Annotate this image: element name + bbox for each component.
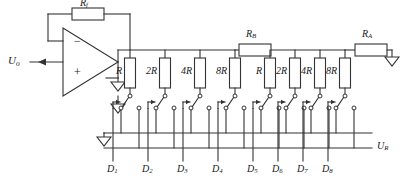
ground-opamp xyxy=(111,78,125,91)
bit-label: D6 xyxy=(272,164,283,175)
bit-label: D7 xyxy=(297,164,308,175)
switch-control-arrowhead xyxy=(331,100,335,104)
opamp-triangle xyxy=(63,28,118,96)
ladder-resistor-body xyxy=(230,58,241,88)
switch-control-arrowhead xyxy=(256,100,260,104)
switch-blade xyxy=(227,97,233,106)
switch-control-arrowhead xyxy=(151,100,155,104)
ladder-resistor-label: 2R xyxy=(137,66,157,76)
bit-label: D4 xyxy=(212,164,223,175)
ladder-resistor-label: 8R xyxy=(317,66,337,76)
ladder-resistor-body xyxy=(340,58,351,88)
ladder-resistor-label: 4R xyxy=(292,66,312,76)
switch-blade xyxy=(157,97,163,106)
switch-blade xyxy=(262,97,268,106)
bit-label: D3 xyxy=(177,164,188,175)
schematic-svg: .w{stroke:#333333;stroke-width:1.1;fill:… xyxy=(0,0,411,191)
ladder-resistor-label: 4R xyxy=(172,66,192,76)
bit-label: D8 xyxy=(322,164,333,175)
bit-label: D1 xyxy=(107,164,118,175)
switch-blade xyxy=(122,97,128,106)
reference-voltage-label: UR xyxy=(377,141,388,152)
switch-throw-contact-reference xyxy=(352,106,356,110)
opamp-block xyxy=(30,14,118,96)
ladder-resistor-label: R xyxy=(102,66,122,76)
switch-blade xyxy=(312,97,318,106)
switch-throw-contact-reference xyxy=(207,106,211,110)
ladder-resistor-body xyxy=(125,58,136,88)
ground-ra-terminal xyxy=(385,57,399,66)
top-rail xyxy=(118,44,392,57)
switch-throw-contact-reference xyxy=(172,106,176,110)
ground-bus-symbol xyxy=(97,133,111,146)
switch-control-arrowhead xyxy=(281,100,285,104)
output-arrow xyxy=(38,59,46,66)
bit-label: D5 xyxy=(247,164,258,175)
ladder-resistor-label: 2R xyxy=(267,66,287,76)
opamp-inverting-sign: − xyxy=(74,35,81,47)
switch-control-arrowhead xyxy=(221,100,225,104)
switch-control-arrowhead xyxy=(306,100,310,104)
switch-blade xyxy=(337,97,343,106)
output-label: Uo xyxy=(8,55,20,67)
switch-throw-contact-reference xyxy=(242,106,246,110)
ladder-resistor-body xyxy=(195,58,206,88)
series-resistor-b-label: RB xyxy=(246,29,256,40)
series-resistor-ra-body xyxy=(355,44,387,56)
series-resistor-a-label: RA xyxy=(362,29,372,40)
switch-control-arrowhead xyxy=(186,100,190,104)
series-resistor-rb-body xyxy=(239,44,271,56)
circuit-diagram-canvas: .w{stroke:#333333;stroke-width:1.1;fill:… xyxy=(0,0,411,191)
switch-throw-contact-reference xyxy=(137,106,141,110)
ladder-resistor-label: 8R xyxy=(207,66,227,76)
feedback-resistor-label: Rf xyxy=(80,0,88,9)
ladder-resistor-label: R xyxy=(242,66,262,76)
switch-blade xyxy=(192,97,198,106)
switch-blade xyxy=(287,97,293,106)
buses xyxy=(104,133,372,148)
bit-label: D2 xyxy=(142,164,153,175)
ladder-resistor-body xyxy=(160,58,171,88)
opamp-noninverting-sign: + xyxy=(74,66,81,78)
